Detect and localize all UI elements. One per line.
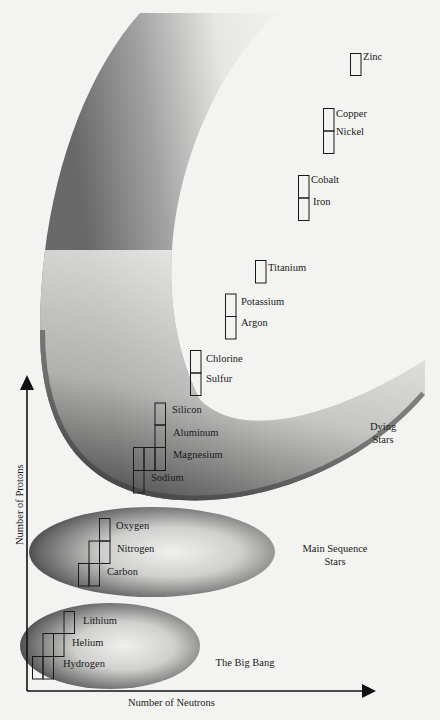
element-label-lithium: Lithium [83, 615, 117, 627]
element-label-copper: Copper [336, 108, 367, 120]
x-axis-label: Number of Neutrons [128, 697, 215, 708]
element-label-cobalt: Cobalt [311, 174, 339, 186]
element-label-zinc: Zinc [363, 51, 382, 63]
x-axis-arrow-icon [362, 684, 376, 698]
element-label-sulfur: Sulfur [206, 373, 232, 385]
element-label-nickel: Nickel [336, 126, 364, 138]
element-label-nitrogen: Nitrogen [117, 543, 154, 555]
region-label-dying-stars: Dying Stars [353, 420, 413, 446]
element-label-sodium: Sodium [151, 472, 184, 484]
element-label-iron: Iron [313, 196, 331, 208]
element-label-silicon: Silicon [172, 404, 202, 416]
element-label-magnesium: Magnesium [173, 449, 223, 461]
element-label-potassium: Potassium [241, 296, 284, 308]
element-label-aluminum: Aluminum [173, 427, 219, 439]
region-label-line: Stars [353, 433, 413, 446]
y-axis-arrow-icon [20, 375, 34, 390]
region-label-line: Dying [353, 420, 413, 433]
element-label-oxygen: Oxygen [116, 520, 149, 532]
element-label-chlorine: Chlorine [206, 353, 243, 365]
element-label-titanium: Titanium [268, 262, 306, 274]
element-label-helium: Helium [72, 637, 104, 649]
region-label-line: Stars [290, 555, 380, 568]
y-axis-label: Number of Protons [14, 465, 25, 546]
region-label-main-sequence: Main Sequence Stars [290, 542, 380, 568]
region-label-line: Main Sequence [290, 542, 380, 555]
region-label-big-bang: The Big Bang [205, 656, 285, 669]
element-label-carbon: Carbon [107, 566, 138, 578]
element-label-argon: Argon [241, 317, 268, 329]
element-label-hydrogen: Hydrogen [63, 658, 105, 670]
